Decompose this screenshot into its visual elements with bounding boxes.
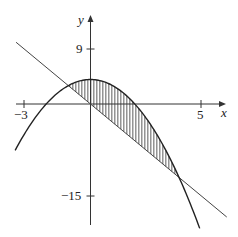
x-tick-label-neg3: −3 [14, 107, 28, 122]
y-axis-label: y [76, 12, 84, 27]
y-tick-label-9: 9 [76, 41, 83, 56]
line-series [16, 42, 227, 217]
y-tick-label-neg15: −15 [61, 188, 81, 203]
x-tick-label-5: 5 [197, 107, 204, 122]
plot-area: −3 5 9 −15 x y [0, 0, 238, 237]
y-axis-arrow-icon [88, 15, 94, 22]
parabola-series [15, 80, 200, 229]
x-axis-label: x [220, 105, 227, 120]
